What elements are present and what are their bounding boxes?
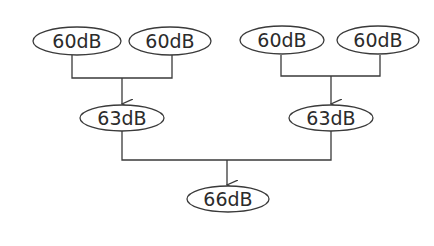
node-label: 60dB <box>257 29 306 51</box>
node-b2: 60dB <box>337 26 419 54</box>
node-a2: 60dB <box>129 27 211 55</box>
node-b1: 60dB <box>240 26 324 54</box>
decibel-addition-diagram: 60dB 60dB 60dB 60dB 63dB 63dB 66dB <box>0 0 434 246</box>
connector-bottom <box>122 131 331 185</box>
node-label: 63dB <box>97 107 146 129</box>
node-label: 60dB <box>353 29 402 51</box>
connector-top-left <box>72 55 172 104</box>
node-a1: 60dB <box>33 27 121 55</box>
node-total: 66dB <box>187 186 269 212</box>
node-a: 63dB <box>80 105 164 131</box>
node-label: 60dB <box>52 30 101 52</box>
node-label: 63dB <box>306 107 355 129</box>
node-label: 66dB <box>203 188 252 210</box>
node-b: 63dB <box>289 105 373 131</box>
connector-top-right <box>281 55 380 104</box>
node-label: 60dB <box>145 30 194 52</box>
